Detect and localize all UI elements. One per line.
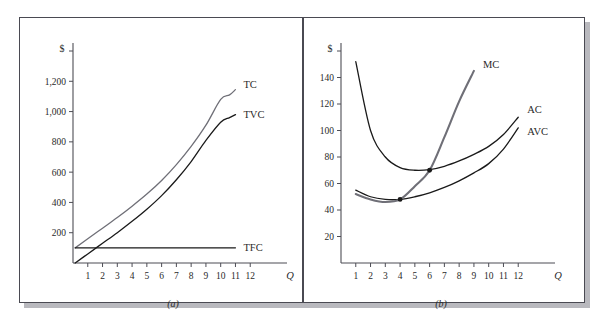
- y-tick-label: 80: [325, 152, 335, 162]
- x-tick-label: 8: [189, 271, 194, 281]
- y-tick-label: 40: [325, 205, 335, 215]
- y-tick-label: 200: [52, 228, 67, 238]
- x-axis-title: Q: [286, 270, 294, 281]
- x-tick-label: 4: [398, 271, 403, 281]
- panel-caption-b: (b): [435, 298, 447, 310]
- x-tick-label: 3: [383, 271, 388, 281]
- x-tick-label: 2: [368, 271, 373, 281]
- y-tick-label: 60: [325, 179, 335, 189]
- ac-min-intersection: [427, 168, 432, 173]
- panel-caption-a: (a): [167, 298, 179, 310]
- curve-label-mc: MC: [483, 59, 499, 70]
- y-tick-label: 800: [52, 137, 67, 147]
- x-tick-label: 5: [144, 271, 149, 281]
- y-tick-label: 1,200: [45, 77, 67, 87]
- x-tick-label: 6: [427, 271, 432, 281]
- x-tick-label: 2: [100, 271, 105, 281]
- economics-cost-curves-figure: 2004006008001,0001,200123456789101112$QT…: [0, 0, 605, 330]
- y-axis-title: $: [328, 43, 333, 54]
- y-axis-title: $: [60, 43, 65, 54]
- y-tick-label: 20: [325, 232, 335, 242]
- x-tick-label: 4: [130, 271, 135, 281]
- curve-tc: [75, 90, 235, 248]
- y-tick-label: 1,000: [45, 107, 67, 117]
- x-tick-label: 8: [457, 271, 462, 281]
- curve-label-tvc: TVC: [243, 109, 264, 120]
- y-tick-label: 600: [52, 168, 67, 178]
- panel-b-plot: 20406080100120140123456789101112$QACAVCM…: [303, 18, 586, 304]
- x-tick-label: 11: [499, 271, 508, 281]
- x-tick-label: 9: [472, 271, 477, 281]
- panel-a-plot: 2004006008001,0001,200123456789101112$QT…: [20, 18, 303, 304]
- curve-label-avc: AVC: [527, 126, 548, 137]
- x-tick-label: 12: [513, 271, 523, 281]
- x-tick-label: 7: [174, 271, 179, 281]
- panel-a: 2004006008001,0001,200123456789101112$QT…: [20, 18, 303, 304]
- avc-min-intersection: [398, 197, 403, 202]
- curve-tvc: [75, 115, 235, 263]
- curve-label-tfc: TFC: [243, 242, 262, 253]
- y-tick-label: 100: [320, 126, 335, 136]
- panel-divider: [302, 17, 304, 303]
- x-tick-label: 12: [245, 271, 255, 281]
- panel-b: 20406080100120140123456789101112$QACAVCM…: [303, 18, 586, 304]
- y-tick-label: 120: [320, 99, 335, 109]
- x-axis-title: Q: [554, 270, 562, 281]
- y-tick-label: 140: [320, 73, 335, 83]
- x-tick-label: 9: [204, 271, 209, 281]
- curve-avc: [356, 128, 518, 200]
- x-tick-label: 10: [484, 271, 494, 281]
- x-tick-label: 10: [216, 271, 226, 281]
- y-tick-label: 400: [52, 198, 67, 208]
- x-tick-label: 7: [442, 271, 447, 281]
- curve-label-tc: TC: [243, 79, 256, 90]
- x-tick-label: 6: [159, 271, 164, 281]
- curve-label-ac: AC: [527, 104, 542, 115]
- x-tick-label: 1: [353, 271, 358, 281]
- x-tick-label: 11: [231, 271, 240, 281]
- x-tick-label: 3: [115, 271, 120, 281]
- x-tick-label: 5: [412, 271, 417, 281]
- x-tick-label: 1: [85, 271, 90, 281]
